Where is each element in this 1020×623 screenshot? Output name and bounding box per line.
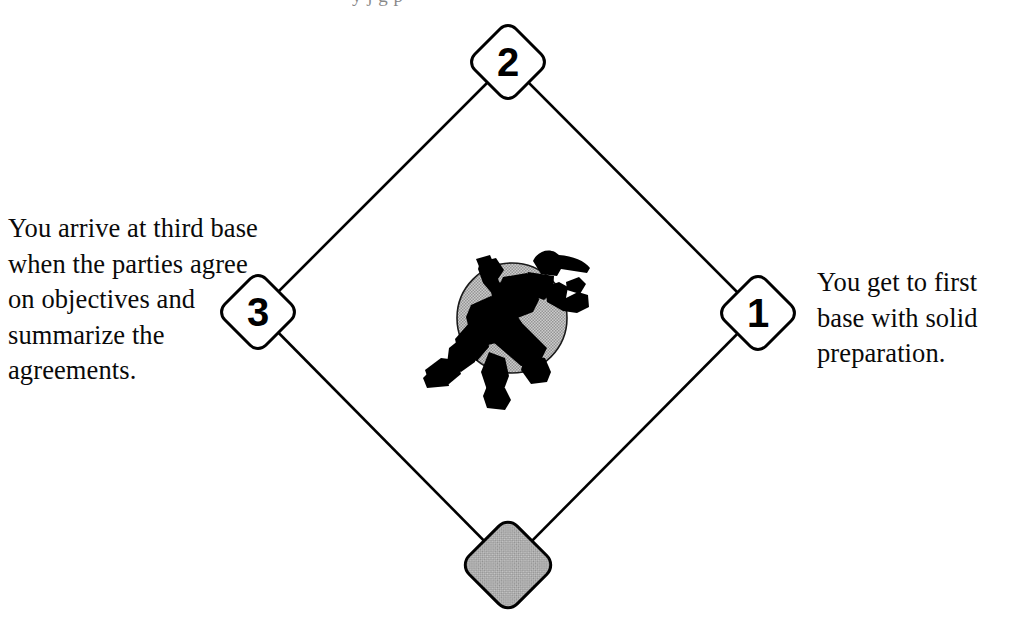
center-runner-group [423,250,590,410]
base-1-label: 1 [747,291,769,335]
base-2-label: 2 [497,40,519,84]
third-base-callout: You arrive at third base when the partie… [8,211,278,389]
first-base-callout: You get to first base with solid prepara… [817,265,1020,372]
baseline-second-to-third [258,62,508,312]
diagram-canvas: y j g p [0,0,1020,623]
